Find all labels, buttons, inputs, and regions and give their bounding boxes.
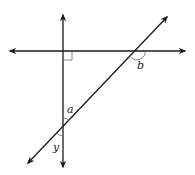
label-b: b [137, 59, 144, 72]
right-angle-marker [63, 51, 72, 60]
transversal-line [28, 17, 167, 163]
geometry-diagram: b a y [0, 0, 195, 175]
angle-y-arc [57, 134, 63, 137]
label-y: y [52, 141, 60, 154]
angle-a-arc [63, 118, 69, 121]
label-a: a [67, 103, 74, 116]
